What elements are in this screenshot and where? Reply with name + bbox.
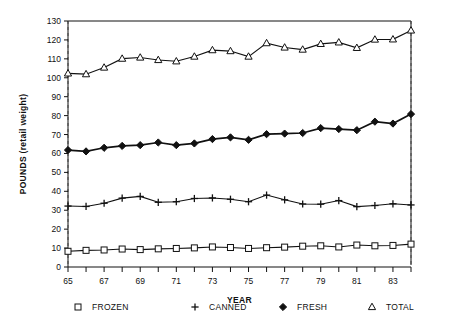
square-marker-icon	[354, 242, 360, 248]
y-axis-tick-label: 100	[47, 73, 61, 83]
x-axis-tick-label: 73	[208, 276, 218, 286]
square-marker-icon	[119, 246, 125, 252]
y-axis-tick-label: 40	[52, 186, 62, 196]
square-marker-icon	[408, 241, 414, 247]
x-axis-tick-label: 75	[244, 276, 254, 286]
y-axis-title: POUNDS (retail weight)	[18, 94, 28, 195]
y-axis-tick-label: 70	[52, 130, 62, 140]
x-axis-tick-label: 77	[280, 276, 290, 286]
square-marker-icon	[390, 242, 396, 248]
x-axis-tick-label: 69	[135, 276, 145, 286]
y-axis-tick-label: 60	[52, 148, 62, 158]
y-axis-tick-label: 120	[47, 35, 61, 45]
square-marker-icon	[155, 246, 161, 252]
square-marker-icon	[336, 244, 342, 250]
square-marker-icon	[209, 244, 215, 250]
legend-label: CANNED	[209, 302, 247, 312]
y-axis-tick-label: 90	[52, 92, 62, 102]
square-marker-icon	[101, 247, 107, 253]
x-axis-tick-label: 65	[63, 276, 73, 286]
y-axis-tick-label: 20	[52, 224, 62, 234]
square-marker-icon	[83, 247, 89, 253]
square-marker-icon	[75, 304, 81, 310]
y-axis-tick-label: 110	[47, 54, 61, 64]
x-axis-tick-label: 81	[352, 276, 362, 286]
square-marker-icon	[65, 248, 71, 254]
y-axis-tick-label: 30	[52, 205, 62, 215]
x-axis-tick-label: 79	[316, 276, 326, 286]
y-axis-tick-label: 0	[56, 262, 61, 272]
square-marker-icon	[300, 243, 306, 249]
y-axis-tick-label: 10	[52, 243, 62, 253]
square-marker-icon	[282, 244, 288, 250]
line-chart-canvas: 0102030405060708090100110120130 65676971…	[0, 0, 449, 326]
x-axis-tick-label: 71	[172, 276, 182, 286]
x-axis-tick-label: 83	[388, 276, 398, 286]
square-marker-icon	[137, 247, 143, 253]
square-marker-icon	[173, 245, 179, 251]
square-marker-icon	[246, 245, 252, 251]
legend-label: FRESH	[297, 302, 327, 312]
square-marker-icon	[227, 245, 233, 251]
square-marker-icon	[318, 243, 324, 249]
chart-figure: 0102030405060708090100110120130 65676971…	[0, 0, 449, 326]
square-marker-icon	[372, 243, 378, 249]
y-axis-tick-label: 50	[52, 167, 62, 177]
x-axis-tick-label: 67	[99, 276, 109, 286]
square-marker-icon	[191, 245, 197, 251]
legend-label: FROZEN	[92, 302, 129, 312]
square-marker-icon	[264, 245, 270, 251]
legend-label: TOTAL	[386, 302, 414, 312]
y-axis-tick-label: 80	[52, 111, 62, 121]
y-axis-tick-label: 130	[47, 16, 61, 26]
